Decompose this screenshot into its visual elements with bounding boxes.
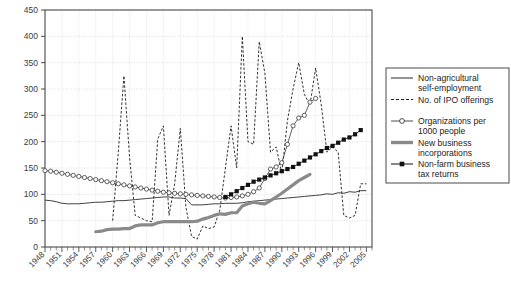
x-tick-label-group: 1978 xyxy=(196,250,216,270)
x-tick-label-group: 1954 xyxy=(61,250,81,270)
data-point-circle xyxy=(161,190,165,194)
data-point-square xyxy=(336,141,340,145)
chart-container: 0501001502002503003504004501948195119541… xyxy=(0,0,511,287)
data-point-square xyxy=(297,162,301,166)
plot-frame xyxy=(45,10,372,247)
data-point-circle xyxy=(71,173,75,177)
data-point-circle xyxy=(314,96,318,100)
x-tick-label-group: 1975 xyxy=(179,250,199,270)
data-point-circle xyxy=(257,186,261,190)
y-tick-label: 350 xyxy=(24,58,38,68)
data-point-square xyxy=(319,149,323,153)
x-tick-label: 1951 xyxy=(44,250,64,270)
y-tick-label: 300 xyxy=(24,84,38,94)
data-point-circle xyxy=(54,170,58,174)
x-tick-label: 1993 xyxy=(281,250,301,270)
x-tick-label-group: 1951 xyxy=(44,250,64,270)
x-tick-label-group: 1981 xyxy=(213,250,233,270)
legend-label-line1: Non-agricultural xyxy=(418,73,479,83)
data-point-circle xyxy=(189,193,193,197)
data-point-square xyxy=(252,180,256,184)
x-tick-label: 1975 xyxy=(179,250,199,270)
x-tick-label-group: 1993 xyxy=(281,250,301,270)
series-line xyxy=(96,174,310,231)
data-point-circle xyxy=(49,169,53,173)
data-point-circle xyxy=(144,187,148,191)
data-point-circle xyxy=(302,113,306,117)
x-tick-label: 1969 xyxy=(146,250,166,270)
x-tick-label-group: 1963 xyxy=(112,250,132,270)
x-tick-label: 1960 xyxy=(95,250,115,270)
data-point-square xyxy=(235,189,239,193)
data-point-circle xyxy=(139,186,143,190)
x-tick-label: 2005 xyxy=(349,250,369,270)
x-tick-label: 1999 xyxy=(315,250,335,270)
legend-swatch-square-marker xyxy=(400,162,405,167)
x-tick-label-group: 1987 xyxy=(247,250,267,270)
x-tick-label-group: 1972 xyxy=(162,250,182,270)
data-point-square xyxy=(223,195,227,199)
data-point-circle xyxy=(94,177,98,181)
legend-label-line2: incorporations xyxy=(418,148,472,158)
data-point-circle xyxy=(201,194,205,198)
legend-label-line1: Organizations per xyxy=(418,116,486,126)
data-point-circle xyxy=(195,193,199,197)
data-point-square xyxy=(240,186,244,190)
data-point-circle xyxy=(173,191,177,195)
data-point-circle xyxy=(65,172,69,176)
data-point-square xyxy=(302,159,306,163)
data-point-circle xyxy=(150,188,154,192)
data-point-square xyxy=(268,173,272,177)
x-tick-label-group: 1984 xyxy=(230,250,250,270)
x-tick-label: 1984 xyxy=(230,250,250,270)
data-point-circle xyxy=(122,183,126,187)
data-point-circle xyxy=(156,189,160,193)
x-tick-label: 1963 xyxy=(112,250,132,270)
x-tick-label-group: 1960 xyxy=(95,250,115,270)
data-point-square xyxy=(347,135,351,139)
data-point-circle xyxy=(268,167,272,171)
legend-label-line1: Non-farm business xyxy=(418,159,490,169)
legend-label-line1: No. of IPO offerings xyxy=(418,95,493,105)
x-tick-label-group: 2002 xyxy=(332,250,352,270)
y-tick-label: 150 xyxy=(24,163,38,173)
x-tick-label-group: 1969 xyxy=(146,250,166,270)
legend-label-line2: tax returns xyxy=(418,169,459,179)
data-point-circle xyxy=(218,195,222,199)
x-tick-label: 1948 xyxy=(27,250,47,270)
data-point-square xyxy=(280,169,284,173)
data-point-square xyxy=(359,128,363,132)
x-tick-label: 1966 xyxy=(129,250,149,270)
data-point-circle xyxy=(291,124,295,128)
data-point-circle xyxy=(82,175,86,179)
data-point-circle xyxy=(246,192,250,196)
x-tick-label: 1987 xyxy=(247,250,267,270)
x-tick-label-group: 1966 xyxy=(129,250,149,270)
x-tick-label: 2002 xyxy=(332,250,352,270)
data-point-square xyxy=(291,165,295,169)
series-line xyxy=(45,191,366,205)
data-point-circle xyxy=(274,165,278,169)
data-point-circle xyxy=(167,191,171,195)
data-point-circle xyxy=(206,194,210,198)
x-tick-label: 1957 xyxy=(78,250,98,270)
x-tick-label: 1972 xyxy=(162,250,182,270)
y-tick-label: 50 xyxy=(29,216,39,226)
data-point-circle xyxy=(43,169,47,173)
x-tick-label: 1954 xyxy=(61,250,81,270)
data-point-circle xyxy=(127,184,131,188)
y-tick-label: 0 xyxy=(33,242,38,252)
data-point-square xyxy=(342,137,346,141)
economic-trends-line-chart: 0501001502002503003504004501948195119541… xyxy=(0,0,511,287)
data-point-circle xyxy=(60,171,64,175)
x-tick-label-group: 1999 xyxy=(315,250,335,270)
y-tick-label: 250 xyxy=(24,110,38,120)
y-tick-label: 100 xyxy=(24,189,38,199)
data-point-square xyxy=(229,192,233,196)
data-point-circle xyxy=(133,185,137,189)
data-point-circle xyxy=(178,192,182,196)
data-point-circle xyxy=(252,190,256,194)
x-tick-label: 1978 xyxy=(196,250,216,270)
legend-label-line2: self-employment xyxy=(418,83,482,93)
x-tick-label: 1996 xyxy=(298,250,318,270)
